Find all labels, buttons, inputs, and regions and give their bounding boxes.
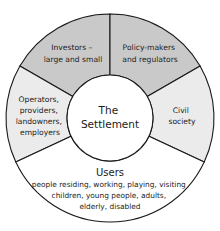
operators-label-line: providers, <box>20 106 58 115</box>
users-title: Users <box>96 167 124 178</box>
operators-label-line: employers <box>20 128 60 137</box>
users-description-line: elderly, disabled <box>79 202 140 211</box>
users-title-text: Users <box>96 167 124 178</box>
investors-label-line: Investors – <box>51 43 92 52</box>
operators-label-line: landowners, <box>16 117 62 126</box>
civil-society-label-line: society <box>168 117 196 126</box>
center-label-line: Settlement <box>81 118 139 130</box>
policy-makers-label-line: Policy-makers <box>123 43 175 52</box>
operators-label-line: Operators, <box>19 95 59 104</box>
center-label-line: The <box>98 104 119 116</box>
investors-label-line: large and small <box>44 55 103 64</box>
users-description-line: people residing, working, playing, visit… <box>32 180 186 189</box>
civil-society-label-line: Civil <box>173 106 189 115</box>
users-description-line: children, young people, adults, <box>52 191 166 200</box>
stakeholder-ring-diagram: The Settlement Investors – large and sma… <box>0 0 220 231</box>
policy-makers-label-line: and regulators <box>122 55 177 64</box>
